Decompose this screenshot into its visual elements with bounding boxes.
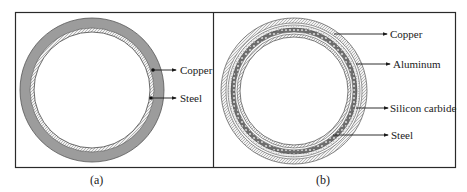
label-a-steel: Steel [180, 92, 202, 104]
panel-b-cross-section [221, 18, 390, 164]
label-b-aluminum: Aluminum [393, 58, 441, 70]
pipe-bore [240, 37, 348, 145]
composite-pipe-cross-section-figure: Copper Steel (a) Copper Aluminum Silicon… [0, 0, 467, 192]
caption-a: (a) [90, 173, 103, 187]
label-b-copper: Copper [390, 28, 422, 40]
panel-a-cross-section [20, 18, 176, 162]
label-b-steel: Steel [391, 129, 413, 141]
label-b-silicon-carbide: Silicon carbide [390, 102, 456, 114]
pipe-bore [34, 32, 150, 148]
label-a-copper: Copper [180, 64, 212, 76]
caption-b: (b) [316, 173, 330, 187]
